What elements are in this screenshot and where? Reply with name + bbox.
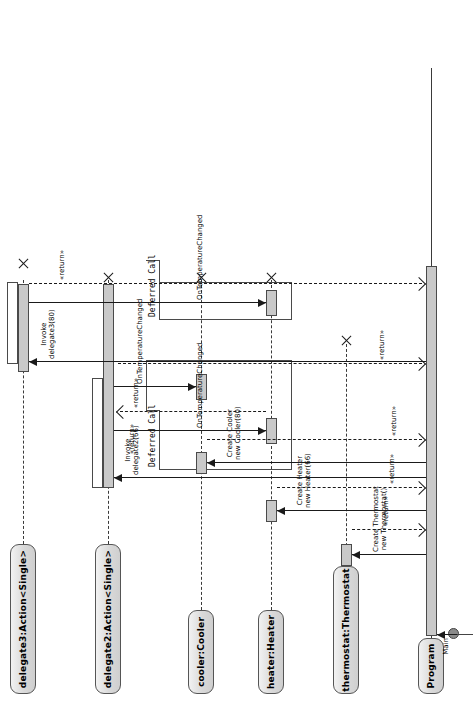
message-ontempchanged-cooler-arrowhead bbox=[188, 383, 196, 391]
activation-delegate2[interactable] bbox=[103, 284, 114, 488]
activation-heater-ontempchanged-2[interactable] bbox=[266, 290, 277, 316]
message-ontempchanged-cooler[interactable] bbox=[114, 386, 196, 387]
message-return-cooler-arrowhead bbox=[412, 433, 426, 447]
lifeline-label-delegate2: delegate2:Action<Single> bbox=[103, 550, 113, 688]
fragment-operator-deferred-call-1: Deferred Call bbox=[146, 410, 160, 470]
message-return-delegate3[interactable] bbox=[29, 283, 422, 284]
message-invoke-delegate3-label: Invoke delegate3(80) bbox=[40, 309, 57, 359]
activation-thermostat[interactable] bbox=[341, 544, 352, 566]
message-invoke-delegate3[interactable] bbox=[29, 361, 426, 362]
message-return-heater-label: «return» bbox=[388, 454, 397, 484]
message-return-heater[interactable] bbox=[277, 487, 422, 488]
lifeline-head-heater[interactable]: heater:Heater bbox=[258, 610, 284, 694]
message-ontempchanged-heater-arrowhead bbox=[258, 427, 266, 435]
fragment-operator-deferred-call-2: Deferred Call bbox=[146, 260, 160, 320]
message-return-cooler-label: «return» bbox=[390, 406, 399, 436]
message-return-ontempchanged-cooler-label: «return» bbox=[128, 424, 137, 454]
lifeline-head-thermostat[interactable]: thermostat:Thermostat bbox=[333, 566, 359, 694]
message-return-delegate2-label: «return» bbox=[378, 330, 387, 360]
message-return-ontempchanged-heater[interactable] bbox=[120, 411, 266, 412]
activation-delegate3-inner bbox=[7, 282, 18, 364]
fragment-operator-label-2: Deferred Call bbox=[148, 254, 157, 317]
lifeline-head-cooler[interactable]: cooler:Cooler bbox=[188, 610, 214, 694]
lifeline-label-cooler: cooler:Cooler bbox=[196, 617, 206, 687]
activation-cooler-create[interactable] bbox=[196, 452, 207, 474]
destruction-heater bbox=[265, 271, 278, 284]
lifeline-thermostat bbox=[346, 344, 347, 566]
message-return-cooler[interactable] bbox=[207, 439, 422, 440]
message-return-thermostat-label: «return» bbox=[382, 496, 391, 526]
message-return-delegate2-arrowhead bbox=[412, 357, 426, 371]
message-return-delegate3-label: «return» bbox=[58, 250, 67, 280]
message-return-heater-arrowhead bbox=[412, 481, 426, 495]
message-invoke-delegate3-arrowhead bbox=[29, 358, 37, 366]
destruction-delegate2 bbox=[102, 271, 115, 284]
message-ontempchanged-cooler2-label: OnTemperatureChanged bbox=[196, 214, 205, 300]
message-ontempchanged-heater[interactable] bbox=[114, 430, 266, 431]
message-ontempchanged-cooler-label: OnTemperatureChanged bbox=[136, 298, 145, 384]
message-invoke-delegate2[interactable] bbox=[114, 477, 426, 478]
message-return-delegate3-arrowhead bbox=[412, 277, 426, 291]
lifeline-head-delegate3[interactable]: delegate3:Action<Single> bbox=[10, 544, 36, 694]
message-invoke-delegate2-arrowhead bbox=[114, 474, 122, 482]
destruction-cooler bbox=[195, 271, 208, 284]
destruction-delegate3 bbox=[17, 257, 30, 270]
message-ontempchanged-cooler2[interactable] bbox=[29, 302, 266, 303]
message-create-heater-arrowhead bbox=[277, 507, 285, 515]
message-return-thermostat-arrowhead bbox=[412, 523, 426, 537]
message-return-delegate2[interactable] bbox=[118, 363, 422, 364]
message-create-thermostat-arrowhead bbox=[352, 551, 360, 559]
message-ontempchanged-cooler2-arrowhead bbox=[258, 299, 266, 307]
fragment-operator-label-1: Deferred Call bbox=[148, 404, 157, 467]
message-create-cooler-arrowhead bbox=[207, 459, 215, 467]
destruction-thermostat bbox=[340, 334, 353, 347]
lifeline-head-delegate2[interactable]: delegate2:Action<Single> bbox=[95, 544, 121, 694]
message-return-ontempchanged-heater-arrowhead bbox=[116, 405, 130, 419]
lifeline-label-program: Program bbox=[426, 644, 436, 689]
lifeline-head-program[interactable]: Program bbox=[418, 638, 444, 694]
message-ontempchanged-heater-label: OnTemperatureChanged bbox=[196, 342, 205, 428]
message-main-label: Main bbox=[442, 638, 451, 662]
activation-delegate3[interactable] bbox=[18, 284, 29, 372]
lifeline-label-thermostat: thermostat:Thermostat bbox=[341, 568, 351, 691]
actor-body-icon bbox=[457, 634, 473, 635]
message-create-heater[interactable] bbox=[277, 510, 426, 511]
message-create-thermostat[interactable] bbox=[352, 554, 426, 555]
activation-program[interactable] bbox=[426, 266, 437, 636]
message-create-cooler-label: Create Cooler new Cooler(80) bbox=[226, 406, 243, 460]
fragment-deferred-call-1 bbox=[146, 360, 292, 470]
activation-heater-ontempchanged[interactable] bbox=[266, 418, 277, 444]
activation-delegate2-inner bbox=[92, 378, 103, 488]
activation-heater-create[interactable] bbox=[266, 500, 277, 522]
lifeline-label-heater: heater:Heater bbox=[266, 615, 276, 689]
message-create-cooler[interactable] bbox=[207, 462, 426, 463]
lifeline-label-delegate3: delegate3:Action<Single> bbox=[18, 550, 28, 688]
